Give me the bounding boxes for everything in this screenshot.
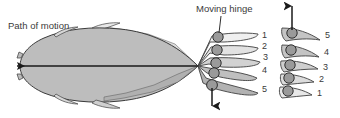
path-of-motion-label: Path of motion: [8, 20, 69, 31]
section-hinge-3: [285, 60, 295, 70]
moving-hinge-leader: [219, 16, 221, 33]
section-number-1: 1: [317, 88, 322, 98]
hinge-circle-4: [209, 68, 219, 78]
section-number-4: 4: [324, 47, 329, 57]
hinge-circle-3: [211, 58, 221, 68]
fin-motion-diagram: Path of motion Moving hinge 1 2 3 4 5 5 …: [0, 0, 340, 118]
digit-number-1: 1: [262, 30, 267, 40]
digit-number-3: 3: [263, 52, 268, 62]
digit-number-4: 4: [262, 65, 267, 75]
section-number-3: 3: [323, 62, 328, 72]
hinge-circle-2: [212, 45, 222, 55]
section-hinge-2: [284, 73, 294, 83]
diagram-canvas: Path of motion Moving hinge 1 2 3 4 5 5 …: [0, 0, 340, 118]
digit-number-5: 5: [262, 84, 267, 94]
moving-hinge-label: Moving hinge: [196, 3, 253, 14]
section-hinge-4: [286, 45, 296, 55]
digit-number-2: 2: [262, 41, 267, 51]
hinge-circle-1: [213, 32, 223, 42]
digit-3-blade: [198, 58, 260, 68]
section-number-2: 2: [319, 74, 324, 84]
fish-body: [20, 28, 198, 102]
section-hinge-1: [283, 86, 293, 96]
section-number-5: 5: [325, 30, 330, 40]
